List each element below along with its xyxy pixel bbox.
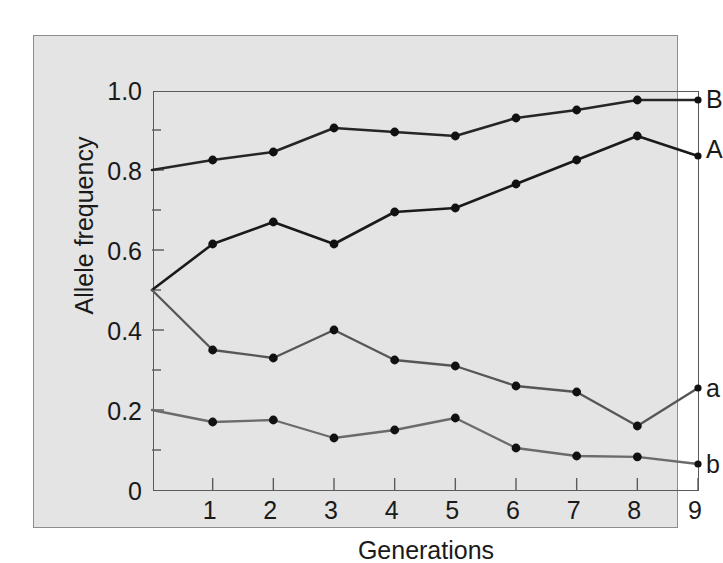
- x-tick-label-1: 1: [190, 498, 230, 523]
- series-label-A: A: [706, 137, 723, 162]
- x-tick-label-5: 5: [432, 498, 472, 523]
- y-tick-label-0: 0: [64, 479, 142, 504]
- series-label-a: a: [706, 376, 720, 401]
- x-tick-label-8: 8: [614, 498, 654, 523]
- y-tick-label-0-8: 0.8: [64, 159, 142, 184]
- y-tick-label-0-2: 0.2: [64, 399, 142, 424]
- x-tick-label-4: 4: [372, 498, 412, 523]
- plot-frame: [153, 91, 699, 491]
- y-tick-label-0-6: 0.6: [64, 239, 142, 264]
- series-label-B: B: [706, 87, 723, 112]
- x-tick-label-9: 9: [675, 498, 715, 523]
- x-tick-label-3: 3: [311, 498, 351, 523]
- y-tick-label-1-0: 1.0: [64, 79, 142, 104]
- x-tick-label-2: 2: [250, 498, 290, 523]
- x-tick-label-7: 7: [554, 498, 594, 523]
- y-tick-label-0-4: 0.4: [64, 319, 142, 344]
- figure-panel: Allele frequency 1.0 0.8 0.6 0.4 0.2 0 1…: [33, 35, 678, 528]
- x-axis-title: Generations: [153, 536, 699, 563]
- x-tick-label-6: 6: [493, 498, 533, 523]
- series-label-b: b: [706, 452, 720, 477]
